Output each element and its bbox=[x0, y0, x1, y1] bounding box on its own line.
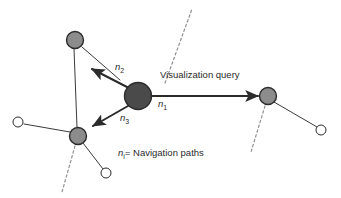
path-label-n1: n1 bbox=[158, 99, 167, 111]
gray-node-right bbox=[260, 88, 277, 105]
dashed-boundary-right bbox=[251, 106, 265, 152]
white-node-bottom bbox=[101, 168, 111, 178]
white-node-left bbox=[13, 117, 23, 127]
dashed-boundary-left bbox=[62, 146, 75, 192]
legend-navigation-paths: ni= Navigation paths bbox=[118, 148, 204, 160]
figure-canvas: Visualization query n1 n2 n3 ni= Navigat… bbox=[0, 0, 341, 198]
node-link-diagram bbox=[0, 0, 341, 198]
white-node-right bbox=[316, 125, 326, 135]
visualization-query-label: Visualization query bbox=[160, 70, 240, 80]
gray-node-top-left bbox=[67, 32, 84, 49]
path-label-n3: n3 bbox=[120, 113, 129, 125]
edge-top-gray-to-bottom-gray bbox=[74, 49, 77, 127]
edge-right-gray-to-white-right bbox=[274, 102, 317, 127]
legend-text: = Navigation paths bbox=[125, 147, 204, 158]
path-label-n2: n2 bbox=[115, 62, 124, 74]
gray-node-bottom-left bbox=[70, 128, 87, 145]
path-label-n3-subscript: 3 bbox=[125, 118, 129, 125]
path-label-n2-subscript: 2 bbox=[120, 67, 124, 74]
edge-bottom-gray-to-white-left bbox=[24, 124, 70, 132]
edge-bottom-gray-to-white-bottom bbox=[83, 143, 103, 169]
path-label-n1-subscript: 1 bbox=[163, 104, 167, 111]
focus-node bbox=[125, 83, 152, 110]
